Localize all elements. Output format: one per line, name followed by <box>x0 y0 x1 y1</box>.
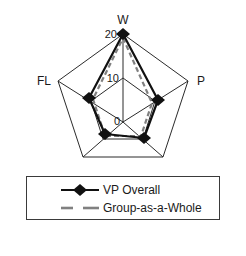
legend-entry-vp-overall: VP Overall <box>61 183 160 197</box>
tick-label-10: 10 <box>107 72 119 84</box>
axis-label-w: W <box>117 13 129 27</box>
axis-label-fl: FL <box>37 74 51 88</box>
legend-label-group-as-a-whole: Group-as-a-Whole <box>103 201 202 215</box>
data-point-w <box>116 28 130 40</box>
data-point-d <box>137 132 151 144</box>
tick-label-0: 0 <box>114 115 120 127</box>
radar-chart-figure: 20 10 0 W P D F FL VP Overall Group-as-a… <box>0 0 246 256</box>
legend-svg: VP Overall Group-as-a-Whole <box>27 177 219 219</box>
legend-entry-group-as-a-whole: Group-as-a-Whole <box>61 201 202 215</box>
radar-plot-svg: 20 10 0 W P D F FL <box>13 12 233 162</box>
radar-plot-area: 20 10 0 W P D F FL <box>13 12 233 162</box>
axis-label-p: P <box>197 74 205 88</box>
chart-legend: VP Overall Group-as-a-Whole <box>26 176 220 220</box>
data-point-p <box>151 94 165 106</box>
legend-label-vp-overall: VP Overall <box>103 183 160 197</box>
diamond-marker <box>73 184 87 196</box>
tick-label-20: 20 <box>105 28 117 40</box>
